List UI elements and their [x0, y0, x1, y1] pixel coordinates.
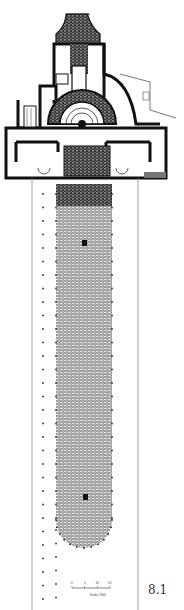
- scale-caption: Scale 1:800: [90, 593, 106, 597]
- column-outer-west: [42, 517, 44, 519]
- column-inner-east: [111, 409, 113, 411]
- scale-tick-0: 0: [71, 581, 73, 585]
- garden-court: [56, 146, 112, 548]
- column-inner-east: [111, 423, 113, 425]
- column-outer-west: [42, 409, 44, 411]
- column-inner-west: [55, 556, 57, 558]
- column-inner-west: [55, 529, 57, 531]
- fountain-north: [82, 240, 87, 246]
- column-outer-west: [42, 328, 44, 330]
- column-inner-west: [55, 396, 57, 398]
- column-outer-west: [42, 531, 44, 533]
- column-inner-west: [55, 355, 57, 357]
- figure-number: 8.1: [148, 583, 167, 597]
- column-outer-west: [42, 355, 44, 357]
- column-outer-west: [42, 274, 44, 276]
- column-inner-east: [111, 342, 113, 344]
- column-outer-west: [42, 396, 44, 398]
- column-inner-west: [55, 234, 57, 236]
- column-inner-east: [111, 220, 113, 222]
- column-apse: [56, 526, 58, 528]
- column-outer-west: [42, 490, 44, 492]
- column-outer-west: [42, 261, 44, 263]
- column-inner-west: [55, 450, 57, 452]
- column-inner-west: [55, 490, 57, 492]
- column-inner-east: [111, 315, 113, 317]
- column-outer-west: [42, 369, 44, 371]
- column-inner-east: [111, 288, 113, 290]
- column-outer-west: [42, 571, 44, 573]
- column-inner-east: [111, 247, 113, 249]
- column-inner-west: [55, 193, 57, 195]
- column-inner-east: [111, 396, 113, 398]
- column-outer-west: [42, 301, 44, 303]
- column-inner-east: [111, 517, 113, 519]
- column-apse: [103, 539, 105, 541]
- scale-tick-10: 10: [96, 581, 100, 585]
- column-inner-east: [111, 477, 113, 479]
- column-outer-west: [42, 504, 44, 506]
- column-inner-east: [111, 490, 113, 492]
- column-inner-east: [111, 261, 113, 263]
- column-inner-east: [111, 328, 113, 330]
- column-outer-west: [42, 193, 44, 195]
- column-outer-west: [42, 220, 44, 222]
- column-apse: [69, 543, 71, 545]
- column-inner-east: [111, 504, 113, 506]
- column-outer-west: [42, 247, 44, 249]
- fountain-south: [83, 494, 88, 500]
- column-outer-west: [42, 598, 44, 600]
- column-inner-west: [55, 477, 57, 479]
- column-inner-west: [55, 220, 57, 222]
- column-apse: [107, 533, 109, 535]
- column-inner-west: [55, 382, 57, 384]
- column-apse: [110, 526, 112, 528]
- column-inner-east: [111, 301, 113, 303]
- column-inner-west: [55, 517, 57, 519]
- column-inner-east: [111, 463, 113, 465]
- column-inner-west: [55, 247, 57, 249]
- column-inner-west: [55, 423, 57, 425]
- column-inner-east: [111, 234, 113, 236]
- column-outer-west: [42, 423, 44, 425]
- column-inner-west: [55, 369, 57, 371]
- column-inner-west: [55, 543, 57, 545]
- column-inner-east: [111, 207, 113, 209]
- column-inner-east: [111, 450, 113, 452]
- column-inner-west: [55, 274, 57, 276]
- floor-plan: 0 5 10 15 Scale 1:800: [0, 0, 184, 610]
- column-inner-west: [55, 504, 57, 506]
- column-inner-east: [111, 369, 113, 371]
- column-apse: [63, 539, 65, 541]
- column-apse: [59, 533, 61, 535]
- column-inner-west: [55, 436, 57, 438]
- column-inner-west: [55, 409, 57, 411]
- column-inner-east: [111, 436, 113, 438]
- column-inner-west: [55, 328, 57, 330]
- column-outer-west: [42, 558, 44, 560]
- column-inner-west: [55, 570, 57, 572]
- column-apse: [97, 543, 99, 545]
- scale-tick-15: 15: [108, 581, 112, 585]
- column-apse: [76, 546, 78, 548]
- column-inner-east: [111, 193, 113, 195]
- column-outer-west: [42, 450, 44, 452]
- column-outer-west: [42, 342, 44, 344]
- column-inner-west: [55, 288, 57, 290]
- column-outer-west: [42, 544, 44, 546]
- column-outer-west: [42, 382, 44, 384]
- column-inner-west: [55, 207, 57, 209]
- column-inner-west: [55, 583, 57, 585]
- north-apse: [56, 14, 100, 44]
- column-apse: [90, 546, 92, 548]
- column-outer-west: [42, 288, 44, 290]
- column-inner-west: [55, 342, 57, 344]
- column-outer-west: [42, 585, 44, 587]
- column-apse: [55, 519, 57, 521]
- column-inner-west: [55, 315, 57, 317]
- column-outer-west: [42, 436, 44, 438]
- column-inner-east: [111, 274, 113, 276]
- column-inner-west: [55, 301, 57, 303]
- column-inner-east: [111, 355, 113, 357]
- column-apse: [83, 547, 85, 549]
